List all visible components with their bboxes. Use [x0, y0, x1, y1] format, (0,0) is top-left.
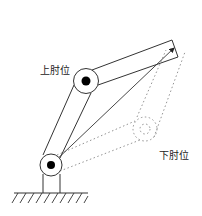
elbow-up-label: 上肘位: [40, 62, 70, 77]
ground: [12, 193, 88, 203]
upper-arm-link: [43, 85, 91, 158]
pedestal: [43, 174, 60, 193]
base-joint: [40, 154, 62, 176]
robot-arm-diagram: [0, 0, 202, 216]
elbow-down-label: 下肘位: [159, 147, 189, 162]
elbow-up-joint: [74, 69, 99, 94]
reach-vector: [52, 48, 174, 164]
forearm-link: [92, 40, 178, 85]
